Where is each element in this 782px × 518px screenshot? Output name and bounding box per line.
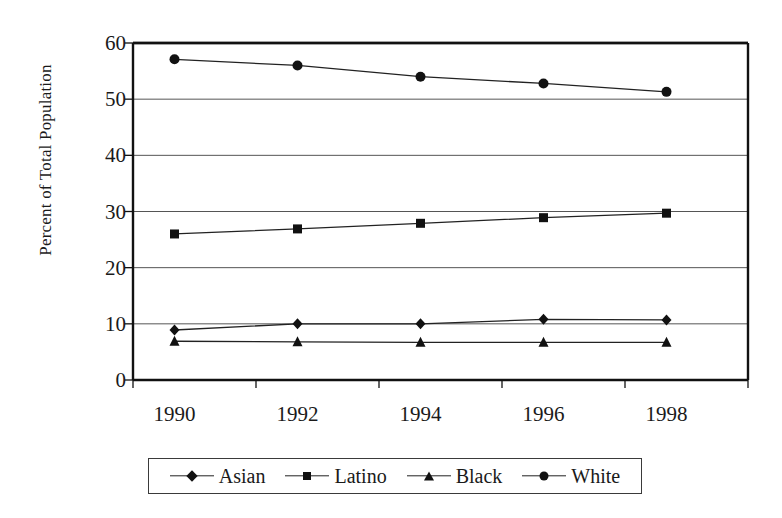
data-point-marker	[416, 72, 426, 82]
legend-label: Latino	[334, 465, 386, 488]
x-axis-tick-label: 1990	[154, 402, 196, 427]
legend-item-white[interactable]: White	[522, 465, 620, 488]
data-point-marker	[416, 318, 426, 329]
y-axis-tick-label: 30	[80, 201, 126, 222]
y-axis-tick-label: 60	[80, 33, 126, 54]
legend-label: Asian	[219, 465, 266, 488]
data-point-marker	[416, 219, 425, 228]
series-asian	[170, 314, 672, 336]
data-point-marker	[539, 314, 549, 325]
legend-marker-black-icon	[407, 469, 451, 483]
x-axis-tick-label: 1996	[523, 402, 565, 427]
y-axis-tick-label: 10	[80, 313, 126, 334]
x-axis-tick-label: 1998	[646, 402, 688, 427]
x-axis-tick-label: 1994	[400, 402, 442, 427]
data-point-marker	[293, 224, 302, 233]
legend-marker-asian-icon	[170, 469, 214, 483]
y-axis-tick-label: 0	[80, 370, 126, 391]
y-axis-tick-labels: 0102030405060	[74, 0, 126, 518]
chart-legend: AsianLatinoBlackWhite	[148, 458, 642, 494]
y-axis-tick-label: 50	[80, 89, 126, 110]
data-point-marker	[293, 60, 303, 70]
circle-marker-icon	[540, 472, 549, 481]
x-axis-tick-label: 1992	[277, 402, 319, 427]
data-point-marker	[170, 54, 180, 64]
data-point-marker	[662, 209, 671, 218]
legend-item-asian[interactable]: Asian	[170, 465, 266, 488]
data-point-marker	[293, 318, 303, 329]
y-axis-tick-label: 20	[80, 257, 126, 278]
legend-marker-white-icon	[522, 469, 566, 483]
data-point-marker	[170, 325, 180, 336]
y-axis-title: Percent of Total Population	[36, 30, 56, 290]
legend-label: White	[571, 465, 620, 488]
series-white	[170, 54, 672, 97]
data-point-marker	[539, 78, 549, 88]
data-point-marker	[662, 87, 672, 97]
triangle-marker-icon	[424, 472, 434, 481]
line-chart-figure: Percent of Total Population 010203040506…	[0, 0, 782, 518]
legend-item-latino[interactable]: Latino	[285, 465, 386, 488]
legend-label: Black	[456, 465, 503, 488]
series-latino	[170, 209, 671, 239]
legend-item-black[interactable]: Black	[407, 465, 503, 488]
data-point-marker	[170, 229, 179, 238]
data-point-marker	[539, 213, 548, 222]
y-axis-tick-label: 40	[80, 145, 126, 166]
legend-marker-latino-icon	[285, 469, 329, 483]
square-marker-icon	[303, 472, 311, 480]
series-black	[170, 336, 672, 347]
diamond-marker-icon	[186, 470, 197, 481]
